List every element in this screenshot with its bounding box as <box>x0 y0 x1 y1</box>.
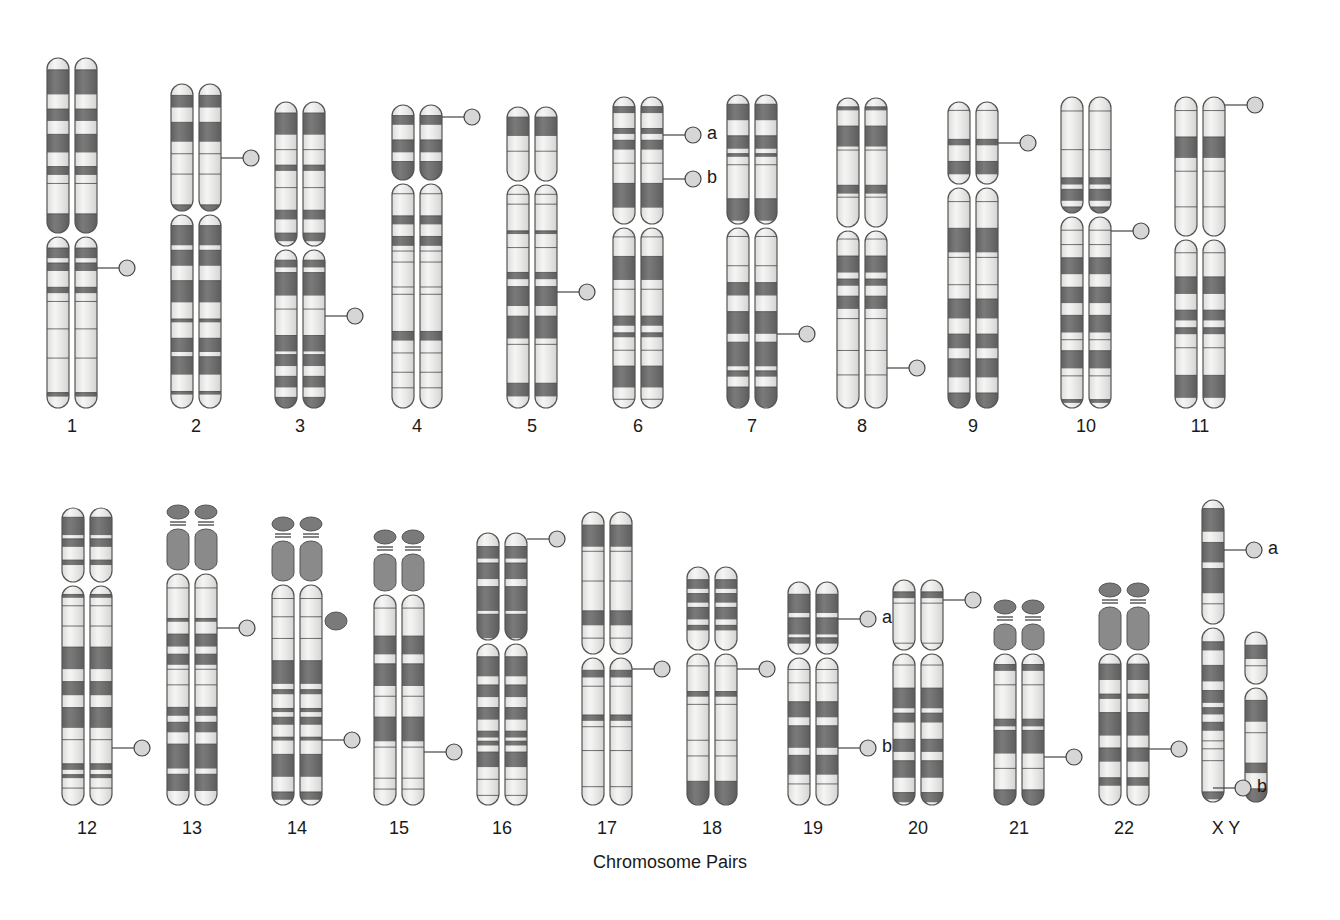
chromosome-22-b <box>1127 583 1149 805</box>
chromosome-4-a <box>392 105 414 408</box>
gene-marker <box>1225 97 1263 113</box>
chromosome-6-b <box>641 97 663 408</box>
pair-label-21: 21 <box>989 818 1049 839</box>
chromosome-3-b <box>303 102 325 408</box>
pair-label-1: 1 <box>42 416 102 437</box>
chromosome-x <box>1202 500 1224 802</box>
chromosome-1-b <box>75 58 97 408</box>
chromosome-19-b <box>816 582 838 805</box>
gene-marker <box>1111 223 1149 239</box>
chromosome-9-a <box>948 102 970 408</box>
gene-marker <box>887 360 925 376</box>
pair-label-XY: X Y <box>1196 818 1256 839</box>
chromosome-15-b <box>402 530 424 805</box>
marker-label-b: b <box>1257 776 1267 797</box>
gene-marker <box>1044 749 1082 765</box>
gene-marker-a <box>1224 542 1262 558</box>
marker-label-b: b <box>707 167 717 188</box>
chromosome-14-b <box>300 517 322 805</box>
pair-label-2: 2 <box>166 416 226 437</box>
pair-label-14: 14 <box>267 818 327 839</box>
chromosome-1-a <box>47 58 69 408</box>
chromosome-4-b <box>420 105 442 408</box>
pair-label-7: 7 <box>722 416 782 437</box>
chromosome-7-b <box>755 95 777 408</box>
gene-marker-a <box>663 127 701 143</box>
pair-label-4: 4 <box>387 416 447 437</box>
gene-marker <box>424 744 462 760</box>
gene-marker <box>777 326 815 342</box>
pair-label-11: 11 <box>1170 416 1230 437</box>
gene-marker-b <box>663 171 701 187</box>
chromosome-22-a <box>1099 583 1121 805</box>
chromosome-11-b <box>1203 97 1225 408</box>
chromosome-8-a <box>837 98 859 408</box>
chromosome-11-a <box>1175 97 1197 408</box>
pair-label-5: 5 <box>502 416 562 437</box>
karyotype-diagram: Chromosome Pairs 12345ab6789101112131415… <box>0 0 1340 920</box>
chromosome-19-a <box>788 582 810 805</box>
chromosome-20-a <box>893 580 915 805</box>
gene-marker <box>442 109 480 125</box>
chromosome-8-b <box>865 98 887 408</box>
chromosome-2-a <box>171 84 193 408</box>
pair-label-9: 9 <box>943 416 1003 437</box>
chromosome-17-a <box>582 512 604 805</box>
gene-marker-b <box>838 740 876 756</box>
pair-label-6: 6 <box>608 416 668 437</box>
gene-marker <box>322 732 360 748</box>
chromosome-17-b <box>610 512 632 805</box>
chromosome-18-b <box>715 567 737 805</box>
chromosome-16-b <box>505 533 527 805</box>
marker-label-a: a <box>707 123 717 144</box>
pair-label-8: 8 <box>832 416 892 437</box>
chromosome-15-a <box>374 530 396 805</box>
gene-marker <box>737 661 775 677</box>
chromosome-13-a <box>167 505 189 805</box>
chromosome-18-a <box>687 567 709 805</box>
chromosome-21-b <box>1022 600 1044 805</box>
chromosome-6-a <box>613 97 635 408</box>
pair-label-20: 20 <box>888 818 948 839</box>
gene-marker <box>943 592 981 608</box>
chromosome-10-b <box>1089 97 1111 408</box>
pair-label-22: 22 <box>1094 818 1154 839</box>
gene-marker <box>112 740 150 756</box>
gene-marker <box>97 260 135 276</box>
chromosome-16-a <box>477 533 499 805</box>
gene-marker-a <box>838 611 876 627</box>
gene-marker <box>217 620 255 636</box>
chromosome-10-a <box>1061 97 1083 408</box>
marker-label-a: a <box>1268 538 1278 559</box>
pair-label-16: 16 <box>472 818 532 839</box>
pair-label-18: 18 <box>682 818 742 839</box>
chromosome-7-a <box>727 95 749 408</box>
marker-label-b: b <box>882 736 892 757</box>
chromosome-12-a <box>62 508 84 805</box>
satellite-blob <box>325 612 347 630</box>
chromosome-13-b <box>195 505 217 805</box>
gene-marker <box>221 150 259 166</box>
marker-label-a: a <box>882 607 892 628</box>
gene-marker <box>998 135 1036 151</box>
pair-label-19: 19 <box>783 818 843 839</box>
chromosome-5-b <box>535 107 557 408</box>
pair-label-17: 17 <box>577 818 637 839</box>
karyotype-svg <box>0 0 1340 920</box>
chromosome-20-b <box>921 580 943 805</box>
chromosome-3-a <box>275 102 297 408</box>
pair-label-12: 12 <box>57 818 117 839</box>
gene-marker <box>557 284 595 300</box>
pair-label-10: 10 <box>1056 416 1116 437</box>
chromosome-2-b <box>199 84 221 408</box>
gene-marker <box>325 308 363 324</box>
diagram-title: Chromosome Pairs <box>0 852 1340 873</box>
gene-marker <box>1149 741 1187 757</box>
pair-label-3: 3 <box>270 416 330 437</box>
chromosome-5-a <box>507 107 529 408</box>
gene-marker <box>632 661 670 677</box>
chromosome-9-b <box>976 102 998 408</box>
chromosome-21-a <box>994 600 1016 805</box>
gene-marker <box>527 531 565 547</box>
pair-label-13: 13 <box>162 818 222 839</box>
